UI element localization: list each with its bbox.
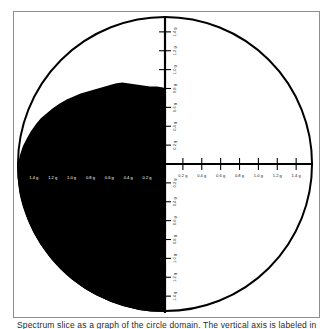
y-tick-label: 0.6 g (172, 103, 177, 112)
x-tick-label-negative: 0.6 g (105, 175, 114, 180)
y-tick-label: 1.4 g (172, 27, 177, 36)
x-tick-label-negative: 0.4 g (124, 175, 133, 180)
x-tick-label: 1.2 g (273, 173, 282, 178)
x-tick-label: 1.0 g (254, 173, 263, 178)
y-tick-label-negative: 0.6 g (172, 216, 177, 225)
x-tick-label-negative: 0.2 g (143, 175, 152, 180)
y-tick-label: 1.2 g (172, 46, 177, 55)
x-tick-label: 0.8 g (235, 173, 244, 178)
y-tick-label-negative: 1.0 g (172, 254, 177, 263)
plot-frame: 0.2 g 0.4 g 0.6 g 0.8 g 1.0 g 1.2 g 1.4 … (13, 11, 320, 318)
x-tick-label: 0.4 g (197, 173, 206, 178)
y-tick-label: 0.8 g (172, 84, 177, 93)
y-tick-label-negative: 0.4 g (172, 197, 177, 206)
y-tick-label: 0.4 g (172, 122, 177, 131)
x-tick-label: 1.4 g (292, 173, 301, 178)
figure-caption: Spectrum slice as a graph of the circle … (17, 320, 317, 329)
y-tick-label-negative: 0.2 g (172, 178, 177, 187)
x-tick-label-negative: 1.2 g (48, 175, 57, 180)
figure-root: 0.2 g 0.4 g 0.6 g 0.8 g 1.0 g 1.2 g 1.4 … (0, 0, 331, 329)
y-tick-label-negative: 1.2 g (172, 273, 177, 282)
x-tick-label-negative: 1.0 g (67, 175, 76, 180)
x-tick-label: 0.2 g (178, 173, 187, 178)
plot-canvas: 0.2 g 0.4 g 0.6 g 0.8 g 1.0 g 1.2 g 1.4 … (14, 12, 319, 317)
y-tick-label-negative: 0.8 g (172, 235, 177, 244)
y-tick-label: 0.2 g (172, 141, 177, 150)
y-tick-label-negative: 1.4 g (172, 292, 177, 301)
x-tick-label: 0.6 g (216, 173, 225, 178)
y-tick-label: 1.0 g (172, 65, 177, 74)
x-tick-label-negative: 1.4 g (29, 175, 38, 180)
x-tick-label-negative: 0.8 g (86, 175, 95, 180)
